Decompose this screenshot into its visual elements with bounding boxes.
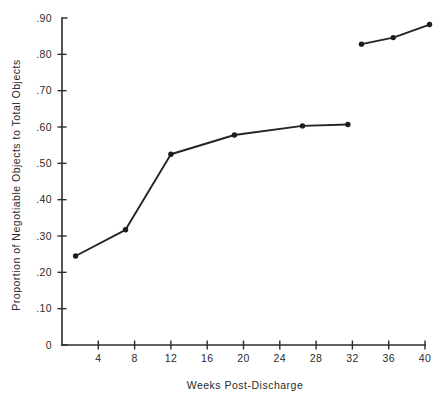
y-tick-label: .30 [36, 230, 52, 242]
data-point-marker [300, 123, 305, 128]
data-point-marker [391, 35, 396, 40]
data-point-marker [427, 22, 432, 27]
y-tick-label: .90 [36, 12, 52, 24]
data-point-marker [359, 41, 364, 46]
data-point-marker [232, 132, 237, 137]
x-tick-label: 24 [274, 352, 286, 364]
y-axis-title: Proportion of Negotiable Objects to Tota… [10, 59, 22, 310]
x-axis-tick-labels: 481216202428323640 [95, 352, 431, 364]
series-line-segment-1 [76, 124, 348, 256]
x-axis: 481216202428323640 [62, 341, 431, 365]
y-axis: 0.10.20.30.40.50.60.70.80.90 [36, 12, 67, 351]
y-tick-label: .50 [36, 157, 52, 169]
y-tick-label: .20 [36, 266, 52, 278]
x-tick-label: 12 [165, 352, 177, 364]
data-series-group [73, 22, 432, 259]
y-tick-label: .60 [36, 121, 52, 133]
x-tick-label: 20 [237, 352, 249, 364]
y-tick-label: .70 [36, 84, 52, 96]
y-tick-label: 0 [46, 339, 52, 351]
y-tick-label: .40 [36, 193, 52, 205]
data-point-marker [345, 122, 350, 127]
y-tick-label: .80 [36, 48, 52, 60]
data-point-marker [73, 253, 78, 258]
x-tick-label: 32 [346, 352, 358, 364]
x-tick-label: 8 [131, 352, 137, 364]
data-point-marker [168, 152, 173, 157]
x-tick-label: 28 [310, 352, 322, 364]
x-tick-label: 4 [95, 352, 101, 364]
x-tick-label: 40 [419, 352, 431, 364]
x-axis-title: Weeks Post-Discharge [187, 379, 304, 391]
x-tick-label: 36 [382, 352, 394, 364]
y-axis-tick-labels: 0.10.20.30.40.50.60.70.80.90 [36, 12, 52, 351]
chart-container: 0.10.20.30.40.50.60.70.80.90 48121620242… [0, 0, 437, 401]
line-chart: 0.10.20.30.40.50.60.70.80.90 48121620242… [0, 0, 437, 401]
data-point-marker [123, 227, 128, 232]
y-tick-label: .10 [36, 302, 52, 314]
x-tick-label: 16 [201, 352, 213, 364]
series-line-segment-2 [361, 25, 429, 45]
